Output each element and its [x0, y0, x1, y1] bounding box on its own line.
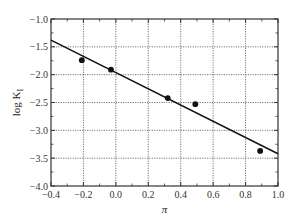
y-tick-label: −1.5	[30, 41, 48, 52]
y-tick-label: −4.0	[30, 181, 48, 192]
y-tick-label: −1.0	[30, 14, 48, 25]
y-tick-label: −3.0	[30, 125, 48, 136]
y-axis-title: log KI	[10, 88, 25, 116]
y-tick-label: −3.5	[30, 153, 48, 164]
x-tick-label: 0.6	[207, 189, 220, 200]
x-tick-label: 0.0	[110, 189, 123, 200]
data-series	[51, 40, 278, 154]
x-axis-title: π	[162, 203, 168, 215]
x-tick-label: 0.2	[142, 189, 155, 200]
x-tick-label: −0.2	[74, 189, 92, 200]
y-axis-title-subscript: I	[16, 88, 25, 91]
x-tick-label: 0.4	[174, 189, 187, 200]
data-point	[192, 101, 198, 107]
grid-lines	[51, 19, 278, 186]
y-tick-label: −2.0	[30, 69, 48, 80]
data-point	[257, 148, 263, 154]
x-tick-labels: −0.4−0.20.00.20.40.60.81.0	[42, 189, 284, 200]
y-tick-labels: −1.0−1.5−2.0−2.5−3.0−3.5−4.0	[30, 14, 48, 192]
scatter-chart: −0.4−0.20.00.20.40.60.81.0 −1.0−1.5−2.0−…	[0, 0, 287, 223]
fit-line	[51, 40, 278, 154]
x-tick-label: 1.0	[272, 189, 285, 200]
y-axis-title-main: log K	[10, 91, 22, 116]
data-point	[79, 57, 85, 63]
y-tick-label: −2.5	[30, 97, 48, 108]
x-tick-label: 0.8	[239, 189, 252, 200]
